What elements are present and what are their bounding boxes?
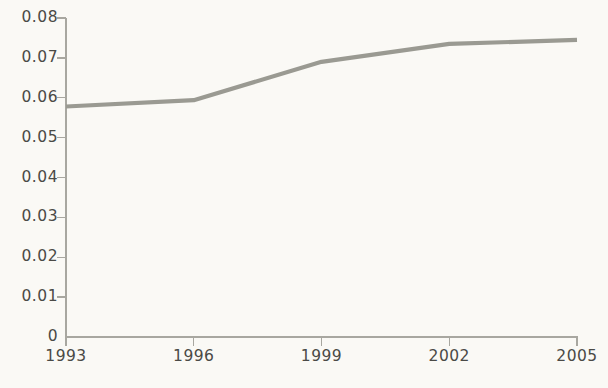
x-axis-tick-label: 1999 [301,349,342,365]
y-axis-tick-label: 0.03 [6,209,58,225]
axis-lines [66,18,578,338]
x-axis-tick-label: 2002 [429,349,470,365]
x-axis-tick-label: 1996 [173,349,214,365]
x-axis-tick-label: 1993 [45,349,86,365]
y-axis-tick-label: 0.07 [6,50,58,66]
y-axis-tick-label: 0.02 [6,249,58,265]
y-axis-tick-label: 0 [6,329,58,345]
x-axis-tick-label: 2005 [556,349,597,365]
y-axis-tick-label: 0.05 [6,130,58,146]
y-axis-tick-label: 0.08 [6,10,58,26]
data-series-line [66,40,577,107]
chart-plot-area [0,0,608,388]
y-axis-tick-label: 0.06 [6,90,58,106]
y-axis-tick-label: 0.01 [6,289,58,305]
x-axis-ticks [66,337,577,346]
chart-container: 0.080.070.060.050.040.030.020.010 199319… [0,0,608,388]
figure-caption [4,377,604,388]
y-axis-tick-label: 0.04 [6,170,58,186]
y-axis-ticks [57,18,66,297]
series-line [66,40,577,107]
